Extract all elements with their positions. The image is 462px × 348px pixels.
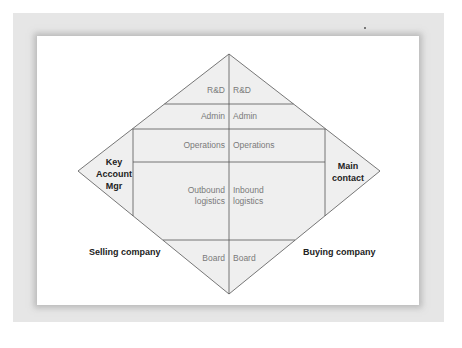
- main-contact-label: Main contact: [326, 160, 370, 184]
- selling-operations-label: Operations: [183, 140, 225, 151]
- selling-logistics-label: Outbound logistics: [188, 185, 225, 207]
- buying-board-label: Board: [233, 253, 256, 264]
- buying-logistics-line2: logistics: [233, 196, 264, 207]
- buying-logistics-line1: Inbound: [233, 185, 264, 196]
- selling-rd-label: R&D: [207, 85, 225, 96]
- key-account-line1: Key: [92, 156, 136, 168]
- buying-company-label: Buying company: [303, 247, 376, 257]
- buying-admin-label: Admin: [233, 111, 257, 122]
- buying-operations-label: Operations: [233, 140, 275, 151]
- buying-rd-label: R&D: [233, 85, 251, 96]
- main-contact-line1: Main: [326, 160, 370, 172]
- key-account-mgr-label: Key Account Mgr: [92, 156, 136, 192]
- main-contact-line2: contact: [326, 172, 370, 184]
- selling-company-label: Selling company: [89, 247, 161, 257]
- selling-logistics-line2: logistics: [188, 196, 225, 207]
- selling-board-label: Board: [202, 253, 225, 264]
- key-account-line3: Mgr: [92, 180, 136, 192]
- buying-logistics-label: Inbound logistics: [233, 185, 264, 207]
- selling-logistics-line1: Outbound: [188, 185, 225, 196]
- diamond-diagram: [0, 0, 462, 348]
- selling-admin-label: Admin: [201, 111, 225, 122]
- key-account-line2: Account: [92, 168, 136, 180]
